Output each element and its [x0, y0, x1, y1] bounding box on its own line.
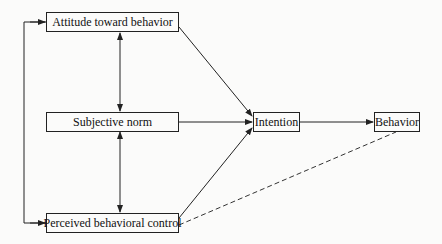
node-intention: Intention: [253, 112, 300, 132]
edge-control-intention: [179, 128, 252, 218]
edge-attitude-intention: [179, 27, 252, 116]
node-behavior: Behavior: [374, 112, 420, 132]
node-perceived-control: Perceived behavioral control: [46, 213, 179, 233]
edge-attitude-control: [24, 22, 46, 223]
node-subjective-norm: Subjective norm: [46, 112, 179, 132]
node-attitude: Attitude toward behavior: [46, 12, 179, 32]
